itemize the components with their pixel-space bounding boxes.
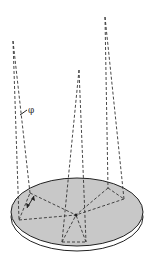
right-cone [105, 17, 124, 199]
angle-phi-marker: φ [20, 105, 34, 115]
disc-cone-diagram: φ [0, 0, 153, 269]
angle-phi-label: φ [28, 105, 34, 115]
center-point [74, 213, 77, 216]
